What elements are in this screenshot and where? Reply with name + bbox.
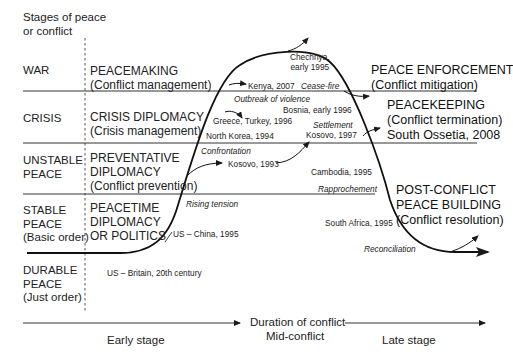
mode-preventative-diplomacy: PREVENTATIVE DIPLOMACY (Conflict prevent… <box>90 151 197 193</box>
mode-label: (Crisis management) <box>90 124 204 138</box>
mode-label: POST-CONFLICT <box>396 183 504 198</box>
x-axis-mid-conflict: Mid-conflict <box>266 329 324 343</box>
kosovo-1993-to-1997-arrow <box>276 142 309 163</box>
stage-label: PEACE <box>23 168 83 182</box>
mode-peacekeeping: PEACEKEEPING (Conflict termination) Sout… <box>387 98 502 143</box>
settlement-arrow <box>363 128 380 136</box>
mode-label: South Ossetia, 2008 <box>387 128 502 143</box>
stage-label: (Basic order) <box>23 231 89 245</box>
example-greece-turkey: Greece, Turkey, 1996 <box>213 116 292 126</box>
transition-rapprochement: Rapprochement <box>318 184 377 194</box>
stage-label: WAR <box>23 64 49 78</box>
mode-label: PEACE ENFORCEMENT <box>371 63 513 78</box>
mode-post-conflict-peace-building: POST-CONFLICT PEACE BUILDING (Conflict r… <box>396 183 504 228</box>
example-kosovo-1997: Kosovo, 1997 <box>306 130 357 140</box>
x-axis-late-stage: Late stage <box>382 333 436 347</box>
reconciliation-arrow <box>450 236 478 252</box>
mode-peacetime-diplomacy: PEACETIME DIPLOMACY OR POLITICS <box>90 201 166 243</box>
transition-rising-tension: Rising tension <box>186 199 238 209</box>
mode-peacemaking: PEACEMAKING (Conflict management) <box>90 64 211 92</box>
y-axis-title-line: Stages of peace <box>23 11 106 25</box>
mode-label: DIPLOMACY <box>90 165 197 179</box>
example-south-africa: South Africa, 1995 <box>325 218 393 228</box>
transition-confrontation: Confrontation <box>201 146 251 156</box>
example-us-britain: US – Britain, 20th century <box>107 268 202 278</box>
y-axis-title-line: or conflict <box>23 25 106 39</box>
stage-unstable-peace: UNSTABLE PEACE <box>23 154 83 181</box>
stage-label: PEACE <box>23 218 89 232</box>
stage-label: (Just order) <box>23 291 82 305</box>
mode-label: (Conflict prevention) <box>90 179 197 193</box>
mode-label: PEACEMAKING <box>90 64 211 78</box>
stage-label: CRISIS <box>23 112 61 126</box>
stage-label: DURABLE <box>23 264 82 278</box>
stage-label: PEACE <box>23 278 82 292</box>
transition-settlement: Settlement <box>313 120 353 130</box>
example-kenya: Kenya, 2007 <box>248 81 295 91</box>
stage-crisis: CRISIS <box>23 112 61 126</box>
mode-label: PREVENTATIVE <box>90 151 197 165</box>
mode-label: OR POLITICS <box>90 229 166 243</box>
mode-peace-enforcement: PEACE ENFORCEMENT (Conflict mitigation) <box>371 63 513 93</box>
x-axis-title: Duration of conflict <box>250 315 345 329</box>
mode-label: (Conflict mitigation) <box>371 78 513 93</box>
stage-war: WAR <box>23 64 49 78</box>
chechnya-arrow <box>288 38 308 51</box>
mode-label: DIPLOMACY <box>90 215 166 229</box>
x-axis-early-stage: Early stage <box>107 333 165 347</box>
stage-durable-peace: DURABLE PEACE (Just order) <box>23 264 82 305</box>
transition-reconciliation: Reconciliation <box>364 244 416 254</box>
us-china-tick <box>165 232 172 242</box>
example-cambodia: Cambodia, 1995 <box>311 167 372 177</box>
mode-label: PEACE BUILDING <box>396 198 504 213</box>
example-line: Chechnya, <box>290 52 330 62</box>
mode-label: (Conflict resolution) <box>396 213 504 228</box>
example-kosovo-1993: Kosovo, 1993 <box>228 159 279 169</box>
transition-cease-fire: Cease-fire <box>301 81 339 91</box>
cease-fire-arrow <box>344 91 369 96</box>
mode-label: PEACEKEEPING <box>387 98 502 113</box>
stage-label: STABLE <box>23 204 89 218</box>
kenya-arrow <box>229 83 246 85</box>
mode-crisis-diplomacy: CRISIS DIPLOMACY (Crisis management) <box>90 110 204 138</box>
mode-label: (Conflict termination) <box>387 113 502 128</box>
mode-label: (Conflict management) <box>90 78 211 92</box>
example-line: early 1995 <box>290 62 330 72</box>
example-chechnya: Chechnya, early 1995 <box>290 52 330 72</box>
stage-stable-peace: STABLE PEACE (Basic order) <box>23 204 89 245</box>
y-axis-title: Stages of peace or conflict <box>23 11 106 38</box>
example-north-korea: North Korea, 1994 <box>206 131 274 141</box>
example-us-china: US – China, 1995 <box>173 229 239 239</box>
mode-label: PEACETIME <box>90 201 166 215</box>
mode-label: CRISIS DIPLOMACY <box>90 110 204 124</box>
example-bosnia: Bosnia, early 1996 <box>283 105 352 115</box>
stage-label: UNSTABLE <box>23 154 83 168</box>
transition-outbreak-of-violence: Outbreak of violence <box>234 94 310 104</box>
